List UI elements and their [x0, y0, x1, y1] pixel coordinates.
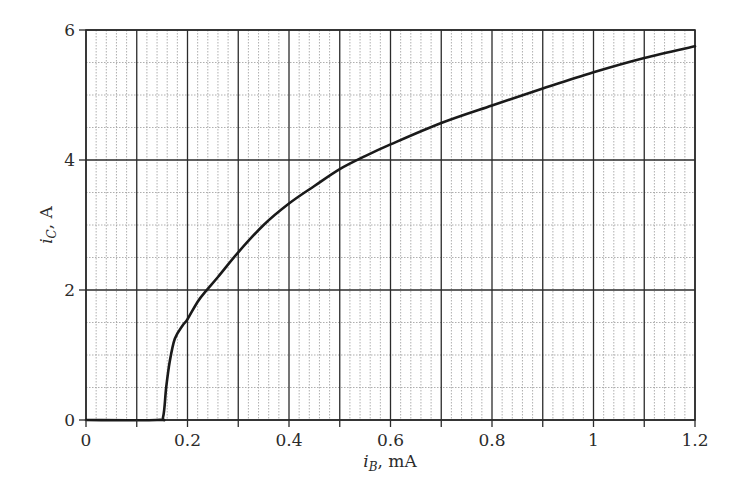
x-tick-label: 0.4 — [275, 430, 302, 450]
x-tick-label: 1 — [588, 430, 599, 450]
x-tick-label: 0.2 — [174, 430, 201, 450]
y-axis-label: iC, A — [36, 205, 59, 243]
ic-vs-ib-chart: 00.20.40.60.811.2 0246 iB, mA iC, A — [0, 0, 745, 499]
x-tick-label: 0.8 — [478, 430, 505, 450]
x-tick-label: 1.2 — [681, 430, 708, 450]
y-tick-label: 6 — [64, 20, 75, 40]
x-axis-ticks: 00.20.40.60.811.2 — [81, 420, 709, 450]
x-tick-label: 0 — [81, 430, 92, 450]
x-axis-label: iB, mA — [363, 451, 417, 474]
y-tick-label: 0 — [64, 410, 75, 430]
y-tick-label: 2 — [64, 280, 75, 300]
y-tick-label: 4 — [64, 150, 75, 170]
y-axis-ticks: 0246 — [64, 20, 86, 430]
x-tick-label: 0.6 — [377, 430, 404, 450]
